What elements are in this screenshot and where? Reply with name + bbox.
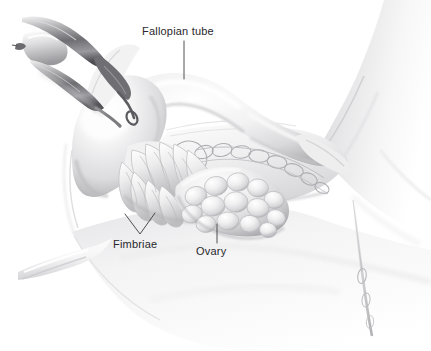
label-fimbriae: Fimbriae	[113, 238, 157, 250]
illustration-canvas: Fallopian tube Fimbriae Ovary	[0, 0, 431, 351]
label-ovary: Ovary	[196, 245, 227, 257]
label-fallopian-tube: Fallopian tube	[142, 25, 214, 37]
anatomical-figure: Fallopian tube Fimbriae Ovary	[0, 0, 431, 351]
